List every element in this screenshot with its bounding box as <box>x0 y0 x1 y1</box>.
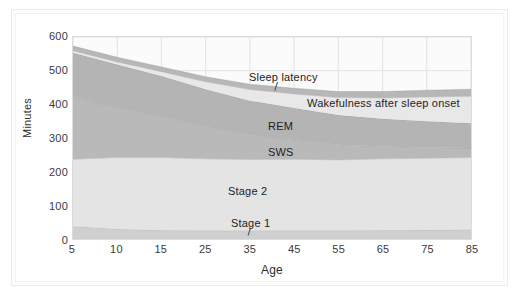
annotation-sleep-latency: Sleep latency <box>249 72 318 83</box>
x-tick-label: 25 <box>185 244 225 255</box>
x-tick-label: 15 <box>141 244 181 255</box>
plot-area <box>72 36 472 240</box>
area-stage-2 <box>73 158 471 231</box>
annotation-rem: REM <box>268 121 293 132</box>
y-tick-label: 100 <box>22 201 68 212</box>
annotation-stage-2: Stage 2 <box>228 186 267 197</box>
stacked-area-svg <box>73 37 471 239</box>
x-tick-label: 10 <box>96 244 136 255</box>
y-tick-label: 200 <box>22 167 68 178</box>
x-axis-label: Age <box>72 263 472 277</box>
x-tick-label: 35 <box>230 244 270 255</box>
y-tick-label: 600 <box>22 31 68 42</box>
annotation-sws: SWS <box>268 147 294 158</box>
x-tick-label: 85 <box>452 244 492 255</box>
annotation-wakefulness: Wakefulness after sleep onset <box>307 98 460 109</box>
x-tick-label: 5 <box>52 244 92 255</box>
x-tick-label: 65 <box>363 244 403 255</box>
x-tick-label: 55 <box>319 244 359 255</box>
x-tick-label: 45 <box>274 244 314 255</box>
y-axis-label: Minutes <box>21 88 33 148</box>
figure: 0100200300400500600 Minutes 510152535455… <box>0 0 519 295</box>
y-tick-label: 500 <box>22 65 68 76</box>
x-tick-label: 75 <box>408 244 448 255</box>
